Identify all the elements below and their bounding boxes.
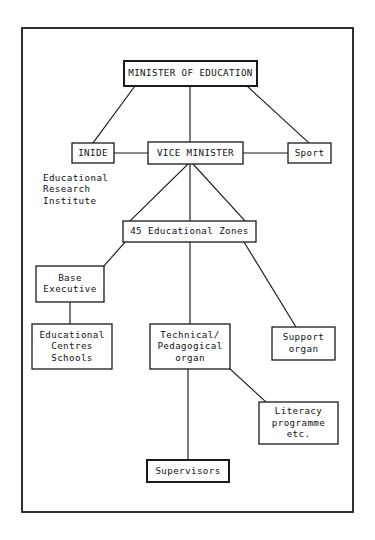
org-chart-container: MINISTER OF EDUCATIONINIDEVICE MINISTERS… — [0, 0, 375, 540]
inide-label-line-1: INIDE — [78, 147, 108, 158]
base-executive-label-line-1: Base — [58, 272, 82, 283]
node-educational-centres-schools[interactable]: EducationalCentresSchools — [32, 324, 112, 369]
educational-centres-schools-label-line-3: Schools — [51, 352, 93, 363]
node-base-executive[interactable]: BaseExecutive — [36, 266, 104, 302]
inide-expansion-caption-line-2: Research — [43, 183, 90, 194]
technical-pedagogical-organ-label-line-3: organ — [175, 352, 205, 363]
caption-layer: EducationalResearchInstitute — [43, 172, 108, 206]
base-executive-label-line-2: Executive — [43, 283, 96, 294]
educational-zones-label-line-1: 45 Educational Zones — [130, 225, 249, 236]
sport-label-line-1: Sport — [295, 147, 325, 158]
supervisors-label-line-1: Supervisors — [155, 465, 220, 476]
educational-centres-schools-label-line-2: Centres — [51, 340, 93, 351]
support-organ-label-line-2: organ — [289, 343, 319, 354]
connector-vice-minister-to-zones-right — [193, 164, 245, 221]
node-technical-pedagogical-organ[interactable]: Technical/Pedagogicalorgan — [150, 324, 230, 369]
connector-vice-minister-to-zones-left — [130, 164, 188, 221]
connector-zones-to-support-organ — [244, 242, 296, 327]
literacy-programme-label-line-2: programme — [272, 417, 325, 428]
node-minister-of-education[interactable]: MINISTER OF EDUCATION — [124, 61, 257, 86]
inide-expansion-caption-line-1: Educational — [43, 172, 108, 183]
technical-pedagogical-organ-label-line-2: Pedagogical — [157, 340, 222, 351]
node-support-organ[interactable]: Supportorgan — [272, 327, 335, 360]
node-layer: MINISTER OF EDUCATIONINIDEVICE MINISTERS… — [32, 61, 338, 482]
node-literacy-programme[interactable]: Literacyprogrammeetc. — [259, 402, 338, 444]
technical-pedagogical-organ-label-line-1: Technical/ — [160, 329, 219, 340]
caption-inide-expansion-caption: EducationalResearchInstitute — [43, 172, 108, 206]
node-educational-zones[interactable]: 45 Educational Zones — [123, 221, 256, 242]
inide-expansion-caption-line-3: Institute — [43, 195, 96, 206]
connector-zones-to-base-executive — [104, 242, 125, 266]
vice-minister-label-line-1: VICE MINISTER — [157, 147, 234, 158]
support-organ-label-line-1: Support — [283, 331, 325, 342]
connector-minister-to-inide — [93, 86, 135, 143]
connector-minister-to-sport — [247, 86, 309, 143]
minister-of-education-label-line-1: MINISTER OF EDUCATION — [128, 67, 253, 78]
org-chart-svg: MINISTER OF EDUCATIONINIDEVICE MINISTERS… — [0, 0, 375, 540]
node-supervisors[interactable]: Supervisors — [147, 460, 229, 482]
literacy-programme-label-line-1: Literacy — [275, 405, 323, 416]
connector-technical-organ-to-literacy — [230, 369, 266, 402]
node-vice-minister[interactable]: VICE MINISTER — [148, 142, 243, 164]
node-inide[interactable]: INIDE — [72, 143, 114, 163]
literacy-programme-label-line-3: etc. — [287, 428, 311, 439]
node-sport[interactable]: Sport — [288, 143, 331, 163]
educational-centres-schools-label-line-1: Educational — [39, 329, 104, 340]
